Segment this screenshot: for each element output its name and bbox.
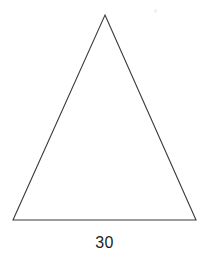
triangle-diagram-svg <box>0 0 209 262</box>
triangle-shape <box>13 15 196 220</box>
base-length-label: 30 <box>0 235 209 251</box>
figure-canvas: 30 <box>0 0 209 262</box>
